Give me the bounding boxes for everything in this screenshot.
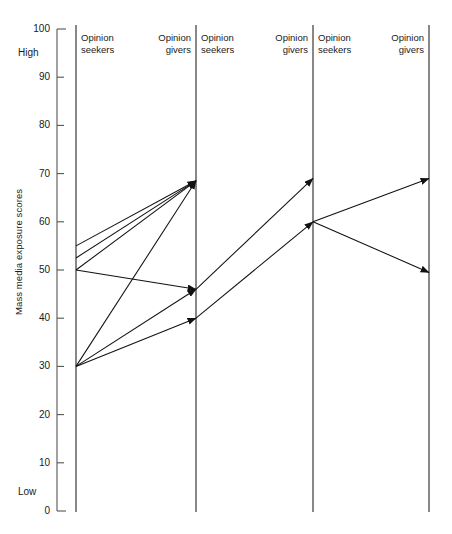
y-scale-axis — [57, 29, 66, 511]
flow-arrow-9 — [196, 222, 313, 318]
chart-plot-area — [0, 0, 452, 534]
stage-axis-lines — [76, 25, 429, 512]
flow-arrow-2 — [76, 181, 196, 258]
flow-arrow-1 — [76, 181, 196, 246]
flow-arrow-11 — [313, 222, 429, 273]
flow-arrow-3 — [76, 181, 196, 270]
flow-arrow-7 — [76, 318, 196, 366]
flow-arrow-group — [76, 178, 429, 366]
flow-arrow-10 — [313, 178, 429, 221]
flow-arrow-6 — [76, 289, 196, 366]
flow-arrow-5 — [76, 181, 196, 367]
flow-arrow-8 — [196, 178, 313, 289]
mass-media-exposure-flow-chart: Mass media exposure scores High Low 1009… — [0, 0, 452, 534]
